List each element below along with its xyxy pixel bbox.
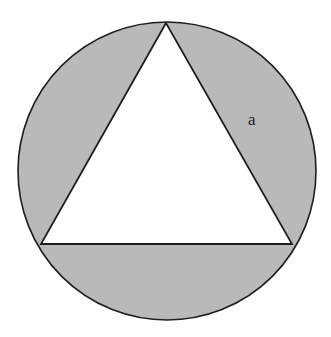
- segment-label-a: a: [248, 110, 256, 129]
- inscribed-triangle-diagram: a: [0, 0, 331, 337]
